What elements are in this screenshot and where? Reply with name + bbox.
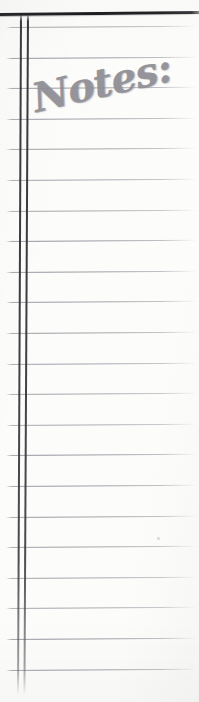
rule-line	[6, 87, 196, 89]
rule-line	[6, 271, 196, 273]
rule-line	[6, 577, 196, 579]
rule-line	[6, 118, 196, 120]
rule-line	[6, 668, 196, 670]
rule-line	[6, 424, 196, 426]
margin-line-outer	[17, 13, 21, 695]
notebook-page: Notes:	[0, 0, 199, 702]
rule-line	[6, 56, 196, 58]
rule-line	[6, 607, 196, 609]
margin-line-inner	[23, 13, 28, 695]
paper-surface-texture	[0, 0, 199, 702]
notes-heading: Notes:	[27, 43, 175, 121]
rule-line	[6, 240, 196, 242]
scan-speck	[157, 537, 160, 540]
rule-line	[6, 546, 196, 548]
rule-line	[6, 454, 196, 456]
rule-line	[6, 209, 196, 211]
rule-line	[6, 332, 196, 334]
rule-line	[6, 26, 196, 28]
rule-line	[6, 179, 196, 181]
rule-line	[6, 362, 196, 364]
rule-line	[6, 301, 196, 303]
rule-line	[6, 638, 196, 640]
rule-line	[6, 515, 196, 517]
rule-line	[6, 393, 196, 395]
rule-line	[6, 148, 196, 150]
rule-line	[6, 485, 196, 487]
